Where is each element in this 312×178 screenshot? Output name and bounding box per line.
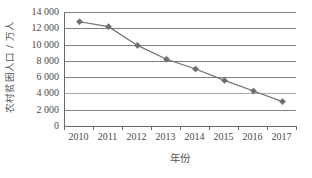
- x-axis-tick-label: 2014: [185, 131, 205, 143]
- x-axis-title: 年份: [64, 150, 296, 165]
- x-axis-tick-label: 2017: [272, 131, 292, 143]
- data-point-marker: [163, 56, 169, 62]
- data-point-marker: [192, 66, 198, 72]
- x-axis-tick: [151, 126, 152, 130]
- x-axis-tick-label: 2011: [98, 131, 118, 143]
- x-axis-tick-label: 2013: [156, 131, 176, 143]
- data-point-marker: [105, 24, 111, 30]
- y-axis-tick-label: 0: [54, 121, 59, 131]
- y-axis-tick-label: 4 000: [37, 88, 60, 98]
- x-axis-tick-label: 2016: [243, 131, 263, 143]
- x-axis-tick: [180, 126, 181, 130]
- x-axis-tick: [267, 126, 268, 130]
- y-axis-tick-label: 2 000: [37, 105, 60, 115]
- x-axis-tick-labels: 20102011201220132014201520162017: [64, 131, 296, 145]
- y-axis-tick-labels: 02 0004 0006 0008 00010 00012 00014 000: [16, 12, 62, 126]
- y-axis-tick-label: 8 000: [37, 56, 60, 66]
- x-axis-tick-label: 2015: [214, 131, 234, 143]
- line-chart-figure: 农村贫困人口 / 万人 02 0004 0006 0008 00010 0001…: [0, 0, 312, 178]
- plot-area: [64, 12, 296, 126]
- y-axis-title-text: 农村贫困人口 / 万人: [2, 21, 16, 114]
- series-layer: [65, 12, 296, 126]
- x-axis-tick: [93, 126, 94, 130]
- x-axis-tick: [64, 126, 65, 130]
- data-point-marker: [76, 19, 82, 25]
- data-point-marker: [279, 98, 285, 104]
- x-axis-ticks: [64, 126, 296, 130]
- y-axis-tick-label: 6 000: [37, 72, 60, 82]
- y-axis-tick-label: 10 000: [32, 40, 60, 50]
- y-axis-tick-label: 12 000: [32, 23, 60, 33]
- x-axis-tick-label: 2012: [127, 131, 147, 143]
- x-axis-tick: [296, 126, 297, 130]
- data-point-marker: [250, 88, 256, 94]
- series-line-and-markers: [65, 12, 297, 126]
- x-axis-tick-label: 2010: [69, 131, 89, 143]
- x-axis-tick: [238, 126, 239, 130]
- y-axis-tick-label: 14 000: [32, 7, 60, 17]
- x-axis-tick: [209, 126, 210, 130]
- x-axis-tick: [122, 126, 123, 130]
- data-point-marker: [134, 42, 140, 48]
- data-point-marker: [221, 77, 227, 83]
